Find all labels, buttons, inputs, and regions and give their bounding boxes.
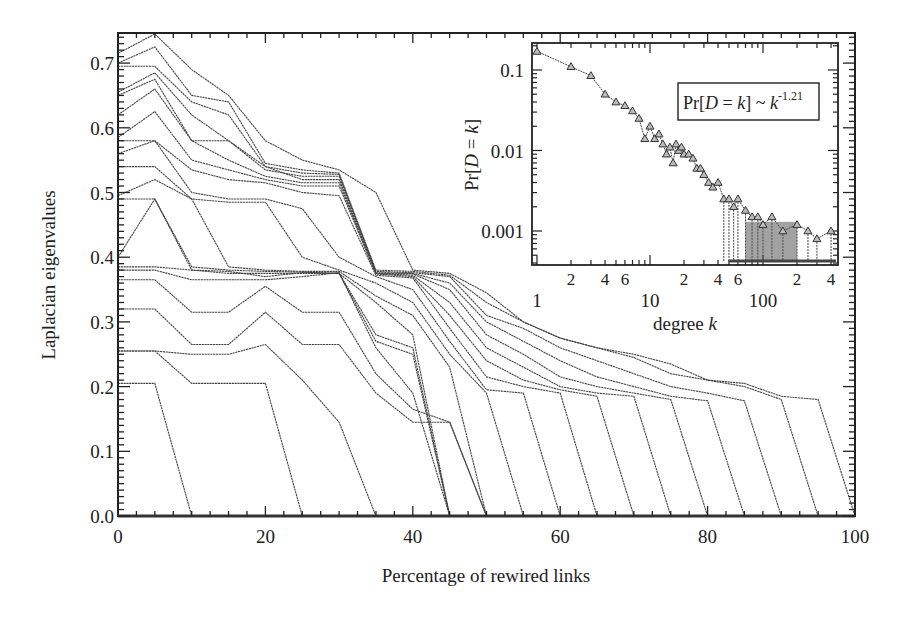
- eigenvalue-line: [118, 351, 302, 516]
- y-tick-label: 0.4: [90, 247, 114, 268]
- eigenvalue-line: [118, 267, 450, 516]
- inset-x-minor-tick-label: 6: [734, 270, 743, 289]
- x-tick-label: 100: [841, 526, 870, 547]
- eigenvalue-line: [118, 309, 487, 516]
- inset-x-minor-tick-label: 2: [793, 270, 802, 289]
- eigenvalue-line: [118, 199, 450, 516]
- eigenvalue-line: [118, 167, 523, 516]
- y-tick-label: 0.2: [90, 377, 114, 398]
- inset-x-minor-tick-label: 6: [621, 270, 630, 289]
- eigenvalue-line: [118, 383, 192, 516]
- inset-x-tick-label: 100: [749, 290, 778, 311]
- y-tick-label: 0.3: [90, 312, 114, 333]
- tail-dense-region: [745, 222, 797, 261]
- inset-y-axis-label: Pr[D = k]: [461, 119, 482, 191]
- y-tick-label: 0.0: [90, 506, 114, 527]
- y-axis-label: Laplacian eigenvalues: [38, 190, 59, 359]
- x-tick-label: 20: [256, 526, 275, 547]
- eigenvalue-line: [118, 199, 450, 516]
- y-tick-label: 0.7: [90, 53, 114, 74]
- inset-x-axis-label: degree k: [653, 313, 717, 334]
- inset-x-tick-label: 10: [641, 290, 660, 311]
- inset-plot: 246246241101000.10.010.001Pr[D = k] ~ k-…: [461, 43, 838, 334]
- x-tick-label: 0: [113, 526, 123, 547]
- inset-x-minor-tick-label: 4: [601, 270, 610, 289]
- eigenvalue-line: [118, 270, 450, 516]
- inset-y-tick-label: 0.1: [500, 60, 524, 81]
- chart-figure: 0204060801000.00.10.20.30.40.50.60.7 246…: [0, 0, 908, 618]
- x-axis-label: Percentage of rewired links: [382, 565, 590, 586]
- inset-x-minor-tick-label: 2: [680, 270, 689, 289]
- eigenvalue-line: [118, 180, 487, 516]
- y-tick-label: 0.6: [90, 118, 114, 139]
- eigenvalue-line: [118, 345, 376, 517]
- inset-x-minor-tick-label: 4: [714, 270, 723, 289]
- inset-x-tick-label: 1: [532, 290, 542, 311]
- x-tick-label: 60: [551, 526, 570, 547]
- inset-y-tick-label: 0.001: [481, 221, 524, 242]
- inset-x-minor-tick-label: 4: [827, 270, 836, 289]
- x-tick-label: 40: [403, 526, 422, 547]
- x-tick-label: 80: [698, 526, 717, 547]
- y-tick-label: 0.5: [90, 183, 114, 204]
- inset-y-tick-label: 0.01: [491, 141, 524, 162]
- inset-x-minor-tick-label: 2: [567, 270, 576, 289]
- y-tick-label: 0.1: [90, 441, 114, 462]
